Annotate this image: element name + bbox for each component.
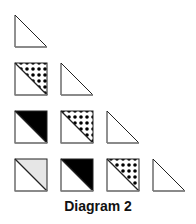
diagram-caption: Diagram 2 [0, 198, 196, 214]
triangle-shape [15, 15, 47, 47]
dotted-square-r4c3 [107, 159, 139, 191]
gray-square-r4c1 [15, 159, 47, 191]
triangle-pattern-diagram [0, 0, 196, 224]
triangle-r4c4 [153, 159, 185, 191]
triangle-r2c2 [61, 63, 93, 95]
triangle-shape [153, 159, 185, 191]
dotted-square-r2c1 [15, 63, 47, 95]
triangle-shape [61, 63, 93, 95]
triangle-shape [107, 111, 139, 143]
black-square-r4c2 [61, 159, 93, 191]
triangle-r3c3 [107, 111, 139, 143]
triangle-r1c1 [15, 15, 47, 47]
dotted-square-r3c2 [61, 111, 93, 143]
black-square-r3c1 [15, 111, 47, 143]
